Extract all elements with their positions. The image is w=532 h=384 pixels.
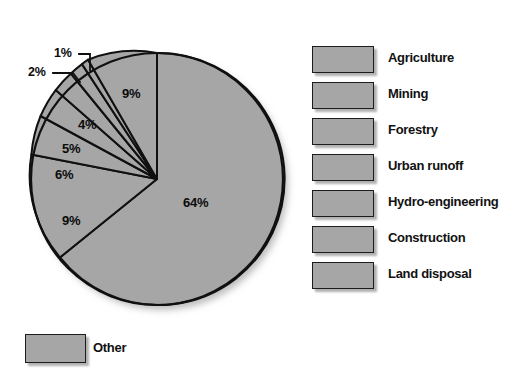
legend-item-other[interactable]: Other xyxy=(25,332,225,368)
legend-item-land-disposal[interactable]: Land disposal xyxy=(312,260,532,296)
legend-item-hydro-engineering[interactable]: Hydro-engineering xyxy=(312,188,532,224)
legend-label-forestry: Forestry xyxy=(388,123,438,136)
legend-label-hydro-engineering: Hydro-engineering xyxy=(388,195,498,208)
pie-label-9pct-other: 9% xyxy=(62,214,80,227)
legend-label-agriculture: Agriculture xyxy=(388,51,454,64)
legend-label-urban-runoff: Urban runoff xyxy=(388,159,463,172)
legend-swatch-forestry xyxy=(312,118,374,145)
legend-label-construction: Construction xyxy=(388,231,465,244)
legend-item-forestry[interactable]: Forestry xyxy=(312,116,532,152)
legend-swatch-other xyxy=(25,334,86,363)
pie-label-5pct: 5% xyxy=(62,142,80,155)
legend-label-other: Other xyxy=(93,341,126,354)
legend-swatch-mining xyxy=(312,82,374,109)
pie-chart-svg xyxy=(0,0,310,330)
legend-item-mining[interactable]: Mining xyxy=(312,80,532,116)
pie-chart-area: 64% 9% 4% 5% 6% 9% 2% 1% xyxy=(0,0,310,330)
legend-swatch-hydro-engineering xyxy=(312,190,374,217)
legend: Agriculture Mining Forestry Urban runoff… xyxy=(312,44,532,296)
legend-item-construction[interactable]: Construction xyxy=(312,224,532,260)
pie-chart-figure: 64% 9% 4% 5% 6% 9% 2% 1% Agriculture Min… xyxy=(0,0,532,384)
legend-label-land-disposal: Land disposal xyxy=(388,267,472,280)
pie-label-64pct: 64% xyxy=(183,196,208,209)
pie-label-6pct: 6% xyxy=(55,168,73,181)
pie-label-2pct: 2% xyxy=(28,66,46,79)
legend-label-mining: Mining xyxy=(388,87,428,100)
legend-item-urban-runoff[interactable]: Urban runoff xyxy=(312,152,532,188)
legend-swatch-urban-runoff xyxy=(312,154,374,181)
legend-item-agriculture[interactable]: Agriculture xyxy=(312,44,532,80)
pie-label-4pct: 4% xyxy=(78,118,96,131)
legend-swatch-construction xyxy=(312,226,374,253)
legend-swatch-agriculture xyxy=(312,46,374,73)
pie-label-1pct: 1% xyxy=(54,47,72,60)
legend-swatch-land-disposal xyxy=(312,262,374,289)
pie-label-9pct-mining: 9% xyxy=(122,87,140,100)
